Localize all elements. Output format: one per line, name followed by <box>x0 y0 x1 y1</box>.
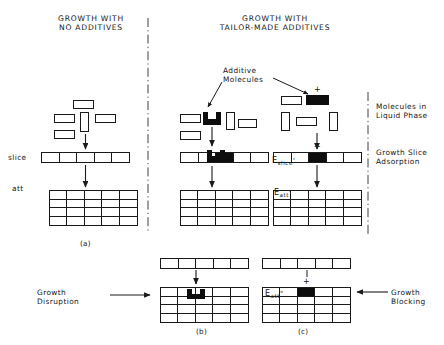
att-cell <box>233 217 250 226</box>
att-cell <box>298 305 315 314</box>
att-cell <box>67 208 84 217</box>
panel-caption-a: (a) <box>80 240 91 249</box>
slice-cell <box>181 153 199 162</box>
slice-cell <box>263 259 281 268</box>
att-cell <box>344 217 361 226</box>
att-cell <box>196 314 213 323</box>
att-cell <box>263 314 280 323</box>
att-cell <box>251 200 268 209</box>
growth-slice-strip-a <box>41 152 130 163</box>
charge-plus-liquid: + <box>314 86 321 94</box>
figure-canvas: GROWTH WITH NO ADDITIVES GROWTH WITH TAI… <box>0 0 444 345</box>
att-cell <box>309 200 326 209</box>
att-cell <box>263 305 280 314</box>
phase-label-liquid: Molecules in Liquid Phase <box>376 102 444 120</box>
att-cell <box>344 200 361 209</box>
att-cell <box>280 314 297 323</box>
att-cell <box>291 217 308 226</box>
att-cell <box>196 305 213 314</box>
slice-cell <box>42 153 60 162</box>
slice-cell <box>95 153 113 162</box>
additive-molecule-filled <box>306 95 329 105</box>
growth-slice-strip-b-bottom <box>160 258 249 269</box>
e-att2-prime-mark: " <box>280 290 284 298</box>
callout-leader-left <box>208 82 222 107</box>
slice-cell <box>298 259 316 268</box>
slice-cell <box>161 259 179 268</box>
att-cell <box>120 200 137 209</box>
growth-slice-strip-c-bottom <box>262 258 351 269</box>
molecule-open <box>296 117 317 126</box>
att-cell <box>333 305 350 314</box>
att-cell <box>216 217 233 226</box>
e-att-subscript: att <box>280 192 289 198</box>
molecule-open <box>180 131 201 140</box>
molecule-open <box>180 114 201 123</box>
additive-molecule-notched-in-att <box>187 284 205 294</box>
title-right: GROWTH WITH TAILOR-MADE ADDITIVES <box>205 14 345 33</box>
slice-cell <box>344 153 361 162</box>
att-cell <box>309 191 326 200</box>
att-cell <box>85 200 102 209</box>
slice-cell <box>231 259 248 268</box>
att-cell <box>231 305 248 314</box>
att-cell <box>198 217 215 226</box>
att-cell <box>216 200 233 209</box>
molecule-open <box>80 112 89 132</box>
att-cell <box>198 208 215 217</box>
charge-plus-att: + <box>303 278 310 286</box>
att-cell <box>198 191 215 200</box>
att-cell <box>50 208 67 217</box>
molecule-open <box>329 112 338 131</box>
att-cell <box>161 305 178 314</box>
att-cell <box>181 200 198 209</box>
att-cell <box>333 297 350 306</box>
att-cell <box>50 191 67 200</box>
att-cell <box>315 288 332 297</box>
att-cell <box>67 200 84 209</box>
slice-cell <box>327 153 345 162</box>
additive-molecule-notched-in-slice <box>207 147 225 159</box>
att-cell <box>213 314 230 323</box>
att-cell <box>120 191 137 200</box>
phase-label-growth-slice: Growth Slice Adsorption <box>376 148 444 166</box>
att-cell <box>280 305 297 314</box>
att-cell <box>85 208 102 217</box>
att-cell <box>274 217 291 226</box>
slice-cell <box>251 153 268 162</box>
att-cell <box>309 208 326 217</box>
energy-label-e-att-prime: Eatt' <box>274 180 292 199</box>
att-cell <box>213 305 230 314</box>
slice-cell <box>60 153 78 162</box>
att-cell <box>120 208 137 217</box>
att-cell-additive <box>298 288 315 297</box>
att-cell <box>85 217 102 226</box>
outcome-growth-disruption: Growth Disruption <box>37 288 107 306</box>
att-cell <box>102 200 119 209</box>
slice-cell <box>77 153 95 162</box>
att-cell <box>198 200 215 209</box>
att-cell <box>309 217 326 226</box>
energy-label-e-att-double-prime: Eatt" <box>265 281 284 300</box>
att-cell <box>181 191 198 200</box>
e-slice-subscript: slice <box>278 160 293 166</box>
att-cell <box>333 314 350 323</box>
att-cell <box>326 217 343 226</box>
att-grid-a <box>49 190 138 226</box>
molecule-open <box>281 96 302 105</box>
att-cell <box>298 297 315 306</box>
e-att-prime-mark: ' <box>289 189 291 197</box>
att-cell <box>291 208 308 217</box>
att-cell <box>85 191 102 200</box>
att-cell <box>102 217 119 226</box>
att-cell <box>291 191 308 200</box>
att-cell <box>344 208 361 217</box>
molecule-open <box>54 114 75 123</box>
att-cell <box>161 314 178 323</box>
att-cell <box>315 314 332 323</box>
att-cell <box>333 288 350 297</box>
att-cell <box>233 200 250 209</box>
att-cell <box>298 314 315 323</box>
att-cell <box>216 191 233 200</box>
att-cell <box>181 217 198 226</box>
